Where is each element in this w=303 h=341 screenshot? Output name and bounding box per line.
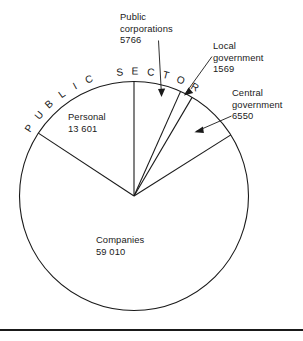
label-personal: Personal 13 601: [68, 111, 106, 134]
public-sector-arc-char: S: [115, 66, 123, 78]
public-sector-arc-char: U: [32, 109, 45, 122]
label-central-government-line1: Central: [232, 87, 283, 99]
public-sector-arc-char: C: [146, 66, 155, 78]
label-central-government: Central government 6550: [232, 87, 283, 122]
label-public-corporations-line1: Public: [120, 11, 173, 23]
label-local-government-value: 1569: [213, 63, 264, 75]
label-central-government-value: 6550: [232, 110, 283, 122]
label-companies-value: 59 010: [96, 246, 144, 258]
label-personal-value: 13 601: [68, 123, 106, 135]
public-sector-arc-char: E: [132, 65, 139, 76]
label-local-government-line1: Local: [213, 40, 264, 52]
label-public-corporations: Public corporations 5766: [120, 11, 173, 46]
label-public-corporations-value: 5766: [120, 34, 173, 46]
label-companies: Companies 59 010: [96, 234, 144, 257]
label-companies-line1: Companies: [96, 234, 144, 246]
label-public-corporations-line2: corporations: [120, 23, 173, 35]
bottom-divider: [0, 329, 303, 331]
public-sector-arc-char: R: [189, 80, 201, 93]
public-sector-arc-char: [101, 69, 107, 80]
public-sector-arc-char: T: [162, 69, 171, 81]
public-sector-arc-char: L: [56, 88, 67, 100]
public-sector-arc-char: P: [23, 122, 36, 134]
public-sector-arc-char: B: [43, 98, 56, 111]
label-local-government: Local government 1569: [213, 40, 264, 75]
label-central-government-line2: government: [232, 99, 283, 111]
public-sector-arc-char: I: [71, 80, 79, 91]
public-sector-arc-char: O: [175, 74, 187, 87]
pie-chart: PUBLIC SECTOR Public corporations 5766 L…: [0, 0, 303, 341]
label-personal-line1: Personal: [68, 111, 106, 123]
public-sector-arc-char: C: [84, 73, 95, 86]
label-local-government-line2: government: [213, 52, 264, 64]
